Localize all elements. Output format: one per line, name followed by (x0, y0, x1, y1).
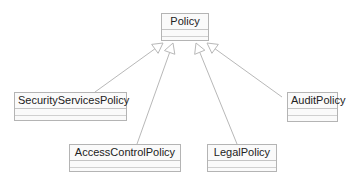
inheritance-arrowhead-icon (195, 43, 205, 54)
operations-compartment (15, 116, 126, 122)
inheritance-arrowhead-icon (164, 43, 174, 54)
class-legal-policy[interactable]: LegalPolicy (207, 144, 277, 172)
operations-compartment (162, 37, 208, 43)
generalization-line (215, 49, 282, 97)
operations-compartment (70, 168, 180, 174)
class-access-control-policy[interactable]: AccessControlPolicy (69, 144, 181, 172)
attributes-compartment (288, 109, 337, 116)
inheritance-arrowhead-icon (152, 43, 163, 53)
attributes-compartment (15, 109, 126, 116)
class-name: Policy (162, 14, 208, 30)
operations-compartment (288, 116, 337, 122)
inheritance-arrowhead-icon (207, 43, 218, 53)
generalization-line (200, 52, 237, 144)
class-name: LegalPolicy (208, 145, 276, 161)
class-audit-policy[interactable]: AuditPolicy (287, 92, 338, 122)
attributes-compartment (208, 161, 276, 168)
class-name: AuditPolicy (288, 93, 337, 109)
class-security-services-policy[interactable]: SecurityServicesPolicy (14, 92, 127, 121)
attributes-compartment (70, 161, 180, 168)
generalization-line (95, 49, 155, 92)
attributes-compartment (162, 30, 208, 37)
operations-compartment (208, 168, 276, 174)
class-name: SecurityServicesPolicy (15, 93, 126, 109)
class-name: AccessControlPolicy (70, 145, 180, 161)
generalization-line (137, 52, 170, 144)
class-policy[interactable]: Policy (161, 13, 209, 41)
